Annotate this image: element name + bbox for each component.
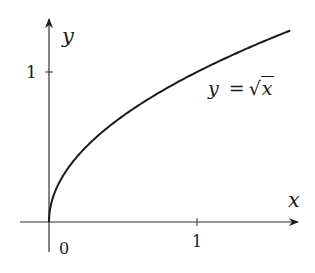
x-tick-label-1: 1 [192,234,202,250]
eq-lhs: y [208,77,219,99]
y-tick-label-1: 1 [26,64,37,81]
sqrt-radical-icon: √ [249,77,261,99]
origin-label: 0 [59,241,69,257]
eq-rhs: x [261,76,274,99]
equation-annotation: y =√x [208,77,274,103]
eq-equals: = [229,77,245,99]
sqrt-curve [49,30,290,222]
y-axis-label: y [62,26,74,47]
x-axis-label: x [288,190,300,211]
chart-canvas [0,0,315,273]
